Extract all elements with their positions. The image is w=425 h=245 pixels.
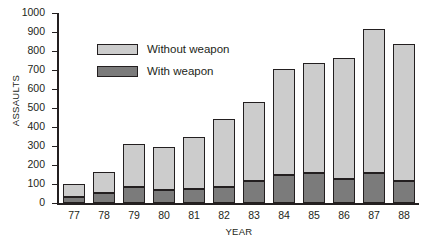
y-tick: 900 — [52, 32, 57, 33]
y-tick-label: 200 — [11, 158, 45, 170]
bar-segment-with-weapon — [63, 197, 85, 203]
y-tick: 500 — [52, 108, 57, 109]
bar-group: 87 — [363, 29, 385, 203]
bar-segment-without-weapon — [153, 147, 175, 190]
bar-segment-without-weapon — [213, 119, 235, 186]
bar-segment-without-weapon — [183, 137, 205, 189]
x-axis-line — [57, 203, 419, 205]
legend-label-with-weapon: With weapon — [147, 65, 213, 77]
x-tick-label: 87 — [363, 209, 385, 221]
x-tick-label: 88 — [393, 209, 415, 221]
x-tick-label: 79 — [123, 209, 145, 221]
bar-group: 77 — [63, 184, 85, 203]
y-tick-label: 300 — [11, 139, 45, 151]
x-tick-label: 83 — [243, 209, 265, 221]
assaults-bar-chart: ASSAULTS YEAR 01002003004005006007008009… — [0, 0, 425, 245]
bar-group: 82 — [213, 119, 235, 203]
bar-segment-without-weapon — [393, 44, 415, 181]
bar-segment-with-weapon — [333, 179, 355, 203]
legend-swatch-with-weapon — [97, 66, 138, 77]
bar-segment-without-weapon — [303, 63, 325, 172]
y-tick-label: 400 — [11, 120, 45, 132]
x-tick-label: 78 — [93, 209, 115, 221]
y-tick: 300 — [52, 146, 57, 147]
bar-group: 83 — [243, 102, 265, 203]
legend-label-without-weapon: Without weapon — [147, 43, 229, 55]
bar-segment-without-weapon — [63, 184, 85, 197]
x-tick-label: 81 — [183, 209, 205, 221]
y-tick-label: 700 — [11, 63, 45, 75]
bar-group: 86 — [333, 58, 355, 203]
legend-item-with-weapon: With weapon — [97, 62, 229, 80]
x-tick-label: 82 — [213, 209, 235, 221]
y-tick: 200 — [52, 165, 57, 166]
bar-segment-with-weapon — [363, 173, 385, 203]
bar-segment-with-weapon — [93, 193, 115, 203]
x-tick-label: 80 — [153, 209, 175, 221]
y-tick: 600 — [52, 89, 57, 90]
y-tick-label: 800 — [11, 44, 45, 56]
bar-group: 79 — [123, 144, 145, 203]
bar-segment-without-weapon — [93, 172, 115, 193]
y-tick: 700 — [52, 70, 57, 71]
legend-swatch-without-weapon — [97, 44, 138, 55]
bar-segment-without-weapon — [123, 144, 145, 187]
bar-segment-with-weapon — [273, 175, 295, 203]
bar-segment-with-weapon — [303, 173, 325, 203]
x-tick-label: 86 — [333, 209, 355, 221]
x-tick-label: 84 — [273, 209, 295, 221]
y-tick-label: 600 — [11, 82, 45, 94]
y-tick: 0 — [52, 203, 57, 204]
bar-segment-with-weapon — [183, 189, 205, 203]
y-tick-label: 1000 — [11, 6, 45, 18]
bar-segment-without-weapon — [243, 102, 265, 181]
y-tick-label: 900 — [11, 25, 45, 37]
x-tick-label: 77 — [63, 209, 85, 221]
x-tick-label: 85 — [303, 209, 325, 221]
bar-segment-with-weapon — [243, 181, 265, 203]
bar-group: 81 — [183, 137, 205, 204]
y-tick-label: 500 — [11, 101, 45, 113]
bar-segment-with-weapon — [393, 181, 415, 203]
bar-group: 85 — [303, 63, 325, 203]
y-tick: 1000 — [52, 13, 57, 14]
bar-segment-without-weapon — [333, 58, 355, 180]
bar-segment-with-weapon — [213, 187, 235, 203]
chart-legend: Without weapon With weapon — [97, 40, 229, 84]
y-tick: 400 — [52, 127, 57, 128]
bar-segment-without-weapon — [363, 29, 385, 172]
y-tick: 800 — [52, 51, 57, 52]
bar-segment-with-weapon — [153, 190, 175, 203]
bar-group: 84 — [273, 69, 295, 203]
bar-segment-with-weapon — [123, 187, 145, 203]
y-tick-label: 100 — [11, 177, 45, 189]
bar-group: 78 — [93, 172, 115, 203]
x-axis-title: YEAR — [55, 226, 423, 237]
y-tick: 100 — [52, 184, 57, 185]
bar-group: 80 — [153, 147, 175, 203]
y-tick-label: 0 — [11, 196, 45, 208]
legend-item-without-weapon: Without weapon — [97, 40, 229, 58]
bar-group: 88 — [393, 44, 415, 203]
bar-segment-without-weapon — [273, 69, 295, 175]
